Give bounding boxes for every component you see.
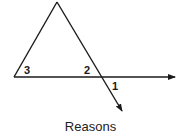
angle-label-2: 2 — [84, 64, 90, 76]
triangle-diagram: 3 2 1 — [0, 0, 181, 136]
angle-label-3: 3 — [24, 64, 30, 76]
transversal-ray — [57, 2, 122, 111]
angle-label-1: 1 — [112, 80, 118, 92]
caption-reasons: Reasons — [0, 119, 181, 134]
triangle-left-side — [14, 2, 57, 77]
